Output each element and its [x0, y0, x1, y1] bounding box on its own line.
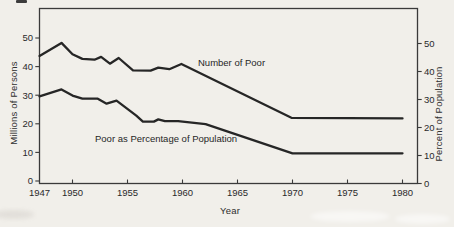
- data-line-number-of-poor: [40, 43, 403, 119]
- x-axis-tick-label: 1950: [62, 187, 83, 198]
- series-label-number-of-poor: Number of Poor: [198, 57, 265, 68]
- poverty-trend-chart: 5040302010050403020100194719501955196019…: [0, 0, 454, 227]
- scanned-figure-page: 5040302010050403020100194719501955196019…: [0, 0, 454, 227]
- right-axis-tick-label: 0: [424, 178, 429, 189]
- right-axis-title: Percent of Population: [433, 66, 444, 161]
- left-axis-tick-label: 20: [22, 118, 33, 129]
- x-axis-tick-label: 1965: [227, 187, 248, 198]
- right-axis-tick-label: 50: [424, 38, 435, 49]
- x-axis-tick-label: 1947: [29, 187, 50, 198]
- series-label-poor-percentage: Poor as Percentage of Population: [95, 133, 237, 144]
- left-axis-tick-label: 0: [28, 175, 33, 186]
- plot-frame: [40, 9, 418, 184]
- x-axis-tick-label: 1975: [337, 187, 358, 198]
- left-axis-title: Millions of Persons: [8, 61, 19, 145]
- x-axis-tick-label: 1980: [392, 187, 413, 198]
- scan-artifact-mark: [16, 0, 27, 3]
- x-axis-tick-label: 1970: [282, 187, 303, 198]
- left-axis-tick-label: 40: [22, 61, 33, 72]
- x-axis-title: Year: [220, 205, 240, 216]
- left-axis-tick-label: 10: [22, 147, 33, 158]
- x-axis-tick-label: 1955: [117, 187, 138, 198]
- left-axis-tick-label: 30: [22, 90, 33, 101]
- x-axis-tick-label: 1960: [172, 187, 193, 198]
- left-axis-tick-label: 50: [22, 32, 33, 43]
